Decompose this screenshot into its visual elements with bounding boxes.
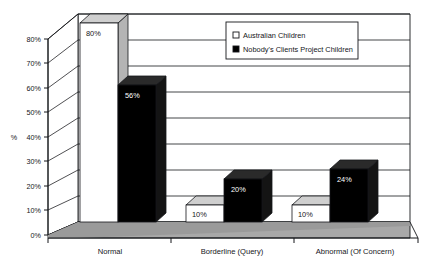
legend-item-nobodys-clients-project-children[interactable]: Nobody's Clients Project Children [233,45,353,54]
bar-value-label: 24% [337,175,352,184]
chart-svg: 80% 70% 60% 50% 40% 30% 20% 10% 0% % 80%… [0,0,432,262]
legend-label: Australian Children [243,31,305,40]
y-tick-label-30: 30% [27,157,42,166]
chart-legend: Australian Children Nobody's Clients Pro… [226,22,358,59]
legend-swatch-black-square [233,46,239,52]
y-tick-label-40: 40% [27,133,42,142]
bar-front-face [80,23,118,222]
bar-front-face [118,85,156,222]
y-tick-label-20: 20% [27,182,42,191]
x-category-label-borderline: Borderline (Query) [201,247,264,256]
y-tick-label-50: 50% [27,108,42,117]
floor-right-edge [410,222,418,238]
plot-floor [48,222,410,239]
bar-value-label: 20% [231,185,246,194]
bar-side-face [156,76,166,222]
y-tick-label-70: 70% [27,59,42,68]
bar-value-label: 80% [86,29,101,38]
bar-abnormal-nobodys-clients-project-children: 24% [330,160,378,222]
plot-left-wall [48,14,78,235]
bar-value-label: 56% [125,91,140,100]
legend-item-australian-children[interactable]: Australian Children [233,31,305,40]
x-category-label-normal: Normal [98,247,123,256]
y-tick-label-10: 10% [27,206,42,215]
bar-side-face [368,160,378,222]
bar-value-label: 10% [298,210,313,219]
bar-normal-nobodys-clients-project-children: 56% [118,76,166,222]
y-tick-label-60: 60% [27,84,42,93]
y-tick-label-0: 0% [31,231,42,240]
x-category-label-abnormal: Abnormal (Of Concern) [316,247,395,256]
y-tick-label-80: 80% [27,35,42,44]
legend-swatch-white-square [233,32,239,38]
legend-label: Nobody's Clients Project Children [243,45,353,54]
bar-chart: 80% 70% 60% 50% 40% 30% 20% 10% 0% % 80%… [0,0,432,262]
bar-borderline-nobodys-clients-project-children: 20% [224,170,272,222]
y-axis: 80% 70% 60% 50% 40% 30% 20% 10% 0% % [11,35,48,240]
y-axis-title: % [11,133,18,142]
bar-value-label: 10% [192,210,207,219]
